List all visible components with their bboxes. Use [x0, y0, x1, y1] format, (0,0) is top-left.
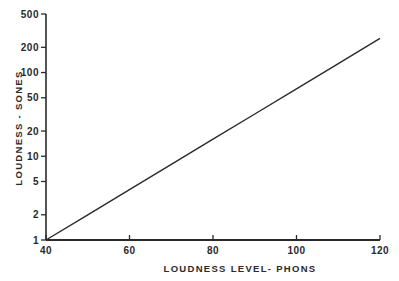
y-tick-label: 2: [33, 209, 39, 220]
x-axis-title: LOUDNESS LEVEL- PHONS: [164, 263, 317, 274]
x-tick-label: 60: [123, 245, 135, 256]
x-tick-label: 40: [40, 245, 52, 256]
x-tick-label: 120: [371, 245, 389, 256]
y-axis: 125102050100200500: [21, 9, 46, 246]
y-tick-label: 50: [27, 92, 39, 103]
x-tick-label: 80: [207, 245, 219, 256]
y-tick-label: 5: [33, 176, 39, 187]
data-line: [46, 38, 380, 240]
y-tick-label: 1: [33, 235, 39, 246]
x-axis: 406080100120: [40, 235, 389, 256]
x-tick-label: 100: [287, 245, 305, 256]
y-tick-label: 200: [21, 42, 39, 53]
y-axis-title: LOUDNESS - SONES: [13, 70, 24, 185]
y-tick-label: 10: [27, 151, 39, 162]
y-tick-label: 20: [27, 126, 39, 137]
plot-area: [46, 38, 380, 240]
loudness-chart: 125102050100200500 406080100120 LOUDNESS…: [0, 0, 399, 281]
y-tick-label: 500: [21, 9, 39, 20]
